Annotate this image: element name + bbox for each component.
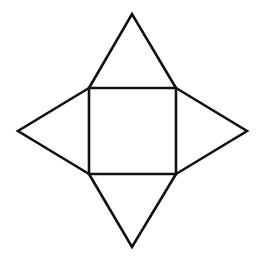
background (0, 0, 262, 263)
pyramid-net-diagram (0, 0, 262, 263)
